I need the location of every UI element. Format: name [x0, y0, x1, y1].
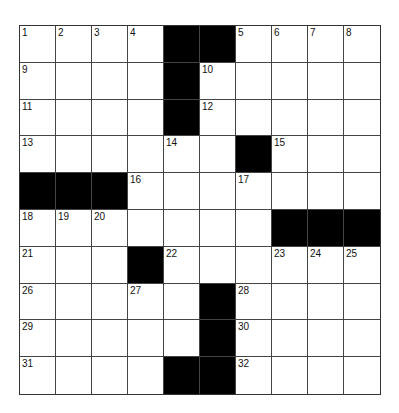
black-square — [164, 100, 200, 137]
crossword-cell[interactable] — [272, 284, 308, 321]
crossword-cell[interactable] — [236, 210, 272, 247]
crossword-cell[interactable] — [56, 136, 92, 173]
crossword-cell[interactable] — [308, 100, 344, 137]
crossword-cell[interactable]: 3 — [92, 26, 128, 63]
crossword-cell[interactable]: 27 — [128, 284, 164, 321]
clue-number: 1 — [22, 27, 28, 38]
crossword-cell[interactable] — [92, 63, 128, 100]
clue-number: 32 — [238, 358, 249, 369]
crossword-cell[interactable]: 1 — [20, 26, 56, 63]
crossword-cell[interactable] — [128, 210, 164, 247]
crossword-cell[interactable] — [164, 210, 200, 247]
crossword-cell[interactable] — [344, 100, 380, 137]
crossword-cell[interactable] — [164, 173, 200, 210]
crossword-cell[interactable] — [236, 247, 272, 284]
black-square — [272, 210, 308, 247]
crossword-cell[interactable] — [344, 136, 380, 173]
crossword-cell[interactable] — [92, 247, 128, 284]
crossword-cell[interactable] — [128, 63, 164, 100]
crossword-cell[interactable]: 7 — [308, 26, 344, 63]
black-square — [56, 173, 92, 210]
clue-number: 4 — [130, 27, 136, 38]
crossword-cell[interactable] — [56, 357, 92, 394]
clue-number: 28 — [238, 285, 249, 296]
crossword-cell[interactable]: 2 — [56, 26, 92, 63]
crossword-cell[interactable]: 25 — [344, 247, 380, 284]
crossword-cell[interactable] — [92, 320, 128, 357]
crossword-cell[interactable]: 16 — [128, 173, 164, 210]
crossword-cell[interactable] — [200, 173, 236, 210]
crossword-cell[interactable]: 9 — [20, 63, 56, 100]
clue-number: 15 — [274, 137, 285, 148]
crossword-cell[interactable]: 22 — [164, 247, 200, 284]
crossword-cell[interactable]: 18 — [20, 210, 56, 247]
crossword-cell[interactable]: 13 — [20, 136, 56, 173]
crossword-cell[interactable]: 14 — [164, 136, 200, 173]
crossword-cell[interactable] — [56, 284, 92, 321]
crossword-cell[interactable]: 10 — [200, 63, 236, 100]
crossword-cell[interactable] — [56, 63, 92, 100]
crossword-cell[interactable] — [56, 320, 92, 357]
crossword-cell[interactable] — [236, 63, 272, 100]
crossword-cell[interactable] — [308, 357, 344, 394]
crossword-cell[interactable] — [128, 100, 164, 137]
crossword-cell[interactable] — [308, 320, 344, 357]
crossword-cell[interactable] — [200, 210, 236, 247]
crossword-cell[interactable]: 31 — [20, 357, 56, 394]
crossword-cell[interactable]: 21 — [20, 247, 56, 284]
crossword-cell[interactable] — [344, 357, 380, 394]
crossword-cell[interactable] — [164, 320, 200, 357]
crossword-cell[interactable] — [344, 173, 380, 210]
crossword-cell[interactable]: 19 — [56, 210, 92, 247]
clue-number: 19 — [58, 211, 69, 222]
crossword-cell[interactable] — [344, 284, 380, 321]
crossword-cell[interactable]: 20 — [92, 210, 128, 247]
crossword-cell[interactable] — [92, 284, 128, 321]
crossword-cell[interactable]: 12 — [200, 100, 236, 137]
crossword-cell[interactable] — [272, 357, 308, 394]
clue-number: 6 — [274, 27, 280, 38]
crossword-cell[interactable]: 30 — [236, 320, 272, 357]
crossword-cell[interactable]: 8 — [344, 26, 380, 63]
crossword-cell[interactable]: 26 — [20, 284, 56, 321]
crossword-cell[interactable] — [308, 136, 344, 173]
crossword-cell[interactable] — [272, 100, 308, 137]
crossword-cell[interactable] — [200, 247, 236, 284]
crossword-cell[interactable] — [164, 284, 200, 321]
clue-number: 24 — [310, 248, 321, 259]
crossword-cell[interactable] — [236, 100, 272, 137]
crossword-cell[interactable]: 32 — [236, 357, 272, 394]
crossword-cell[interactable] — [92, 100, 128, 137]
crossword-cell[interactable] — [56, 100, 92, 137]
clue-number: 23 — [274, 248, 285, 259]
crossword-cell[interactable] — [272, 173, 308, 210]
crossword-cell[interactable]: 29 — [20, 320, 56, 357]
crossword-cell[interactable]: 24 — [308, 247, 344, 284]
crossword-cell[interactable] — [308, 173, 344, 210]
crossword-cell[interactable] — [272, 320, 308, 357]
crossword-cell[interactable]: 11 — [20, 100, 56, 137]
crossword-cell[interactable] — [344, 63, 380, 100]
crossword-cell[interactable] — [128, 136, 164, 173]
crossword-cell[interactable] — [200, 136, 236, 173]
crossword-cell[interactable] — [344, 320, 380, 357]
crossword-cell[interactable] — [128, 320, 164, 357]
clue-number: 29 — [22, 321, 33, 332]
clue-number: 17 — [238, 174, 249, 185]
crossword-cell[interactable] — [308, 284, 344, 321]
crossword-cell[interactable]: 23 — [272, 247, 308, 284]
crossword-cell[interactable]: 5 — [236, 26, 272, 63]
crossword-cell[interactable] — [128, 357, 164, 394]
crossword-cell[interactable] — [92, 357, 128, 394]
crossword-cell[interactable]: 4 — [128, 26, 164, 63]
crossword-cell[interactable]: 15 — [272, 136, 308, 173]
crossword-cell[interactable]: 6 — [272, 26, 308, 63]
crossword-cell[interactable] — [92, 136, 128, 173]
crossword-cell[interactable]: 17 — [236, 173, 272, 210]
crossword-cell[interactable] — [56, 247, 92, 284]
clue-number: 9 — [22, 64, 28, 75]
crossword-cell[interactable] — [308, 63, 344, 100]
clue-number: 7 — [310, 27, 316, 38]
crossword-cell[interactable] — [272, 63, 308, 100]
crossword-cell[interactable]: 28 — [236, 284, 272, 321]
